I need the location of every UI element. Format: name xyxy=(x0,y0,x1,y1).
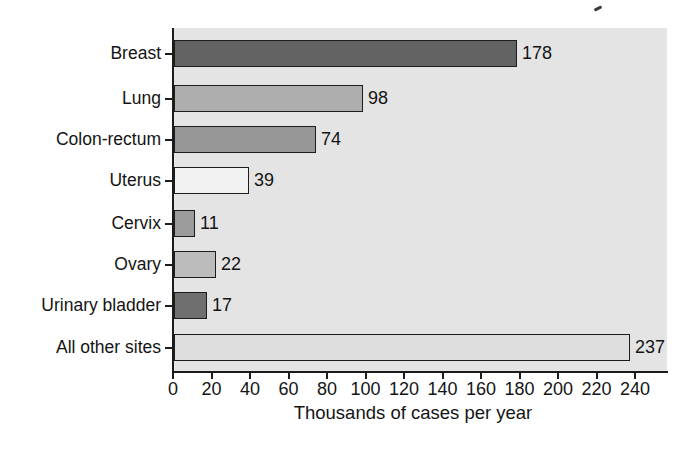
x-tick-label: 60 xyxy=(269,379,309,400)
value-label: 74 xyxy=(321,126,341,153)
value-label: 17 xyxy=(212,292,232,319)
value-label: 39 xyxy=(254,167,274,194)
category-label: Colon-rectum xyxy=(0,126,161,153)
bar-row-ovary: Ovary 22 xyxy=(0,251,684,278)
category-label: Ovary xyxy=(0,251,161,278)
bar-cervix xyxy=(174,210,195,237)
pen-mark xyxy=(594,5,603,11)
x-tick-label: 200 xyxy=(538,379,578,400)
bar-lung xyxy=(174,85,363,112)
value-label: 11 xyxy=(200,210,219,237)
x-axis-line xyxy=(172,371,668,373)
category-label: Breast xyxy=(0,40,161,67)
bar-row-uterus: Uterus 39 xyxy=(0,167,684,194)
bar-uterus xyxy=(174,167,249,194)
bar-row-colon-rectum: Colon-rectum 74 xyxy=(0,126,684,153)
x-tick-label: 160 xyxy=(461,379,501,400)
category-tick-mark xyxy=(165,180,172,182)
category-tick-mark xyxy=(165,98,172,100)
category-tick-mark xyxy=(165,223,172,225)
bar-row-breast: Breast 178 xyxy=(0,40,684,67)
x-tick-label: 20 xyxy=(192,379,232,400)
value-label: 178 xyxy=(522,40,552,67)
bar-urinary-bladder xyxy=(174,292,207,319)
category-label: Lung xyxy=(0,85,161,112)
category-tick-mark xyxy=(165,139,172,141)
category-label: Cervix xyxy=(0,210,161,237)
x-tick-label: 100 xyxy=(346,379,386,400)
x-tick-label: 120 xyxy=(384,379,424,400)
bar-row-lung: Lung 98 xyxy=(0,85,684,112)
x-axis-title: Thousands of cases per year xyxy=(173,402,653,424)
bar-row-urinary-bladder: Urinary bladder 17 xyxy=(0,292,684,319)
bar-chart-figure: Breast 178 Lung 98 Colon-rectum 74 Uteru… xyxy=(0,0,684,454)
bar-colon-rectum xyxy=(174,126,316,153)
value-label: 237 xyxy=(635,334,665,361)
category-tick-mark xyxy=(165,305,172,307)
x-tick-label: 220 xyxy=(577,379,617,400)
bar-row-cervix: Cervix 11 xyxy=(0,210,684,237)
plot-area xyxy=(173,28,667,371)
category-label: Uterus xyxy=(0,167,161,194)
category-label: Urinary bladder xyxy=(0,292,161,319)
value-label: 98 xyxy=(368,85,388,112)
category-tick-mark xyxy=(165,264,172,266)
bar-all-other-sites xyxy=(174,334,630,361)
x-tick-label: 140 xyxy=(423,379,463,400)
x-tick-label: 180 xyxy=(500,379,540,400)
x-tick-label: 80 xyxy=(307,379,347,400)
value-label: 22 xyxy=(221,251,241,278)
bar-breast xyxy=(174,40,517,67)
bar-ovary xyxy=(174,251,216,278)
x-tick-label: 0 xyxy=(153,379,193,400)
x-tick-label: 240 xyxy=(615,379,655,400)
x-tick-label: 40 xyxy=(230,379,270,400)
category-tick-mark xyxy=(165,53,172,55)
category-tick-mark xyxy=(165,347,172,349)
bar-row-all-other-sites: All other sites 237 xyxy=(0,334,684,361)
category-label: All other sites xyxy=(0,334,161,361)
y-axis-line xyxy=(172,28,174,373)
